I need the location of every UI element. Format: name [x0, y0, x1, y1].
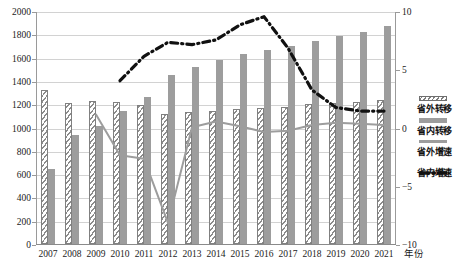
- y-axis-left-tick-label: 800: [17, 147, 31, 157]
- legend-swatch-gray-line: [419, 140, 447, 143]
- legend-label-neizhuanyi: 省内转移: [417, 124, 460, 137]
- chart-container: 0200400600800100012001400160018002000 −1…: [0, 0, 460, 265]
- legend-item-neizhuanyi: 省内转移: [417, 118, 460, 137]
- legend-item-waizhuanyi: 省外转移: [417, 96, 460, 115]
- x-axis-tick-label: 2009: [87, 249, 106, 259]
- x-axis-tick-label: 2021: [375, 249, 394, 259]
- legend-swatch-hatched-bar: [419, 96, 447, 101]
- legend-label-waizhuanyi: 省外转移: [417, 102, 460, 115]
- y-axis-right-tick-mark: [396, 12, 400, 13]
- legend-item-waizengsu: 省外增速: [417, 140, 460, 158]
- y-axis-right-tick-mark: [396, 187, 400, 188]
- y-axis-left-tick-label: 200: [17, 217, 31, 227]
- x-axis-tick-label: 2013: [183, 249, 202, 259]
- plot-area: 0200400600800100012001400160018002000 −1…: [36, 12, 396, 245]
- legend-label-waizengsu: 省外增速: [417, 145, 460, 158]
- line-inside-growth: [120, 17, 384, 111]
- legend-swatch-dash-dot-line: [419, 161, 447, 165]
- y-axis-right-tick-mark: [396, 245, 400, 246]
- y-axis-left-tick-label: 0: [26, 240, 31, 250]
- y-axis-right-tick-mark: [396, 129, 400, 130]
- y-axis-right-tick-mark: [396, 70, 400, 71]
- legend-item-neizengsu: 省内增速: [417, 161, 460, 179]
- y-axis-left-tick-label: 1600: [12, 54, 31, 64]
- x-axis-tick-label: 2007: [39, 249, 58, 259]
- x-axis-tick-label: 2011: [135, 249, 154, 259]
- line-outside-growth: [96, 115, 384, 223]
- x-axis-tick-label: 2008: [63, 249, 82, 259]
- x-axis-tick-label: 2018: [303, 249, 322, 259]
- x-axis-tick-label: 2016: [255, 249, 274, 259]
- x-axis-tick-label: 2014: [207, 249, 226, 259]
- x-axis-title: 年份: [404, 246, 424, 260]
- legend-label-neizengsu: 省内增速: [417, 166, 460, 179]
- y-axis-right-tick-label: 5: [402, 65, 407, 75]
- x-axis-tick-label: 2017: [279, 249, 298, 259]
- y-axis-left-tick-label: 1200: [12, 100, 31, 110]
- x-axis-tick-label: 2012: [159, 249, 178, 259]
- x-axis-tick-label: 2020: [351, 249, 370, 259]
- chart-legend: 省外转移 省内转移 省外增速 省内增速: [417, 96, 460, 182]
- y-axis-left-tick-label: 1000: [12, 124, 31, 134]
- x-axis-tick-label: 2010: [111, 249, 130, 259]
- y-axis-right-tick-label: 0: [402, 124, 407, 134]
- y-axis-left-tick-label: 1400: [12, 77, 31, 87]
- y-axis-left-tick-mark: [32, 245, 36, 246]
- line-series-group: [36, 12, 396, 245]
- x-axis-tick-label: 2019: [327, 249, 346, 259]
- legend-swatch-gray-bar: [419, 118, 447, 123]
- y-axis-right-tick-label: −5: [402, 182, 412, 192]
- y-axis-right-tick-label: 10: [402, 7, 412, 17]
- y-axis-left-tick-label: 1800: [12, 30, 31, 40]
- y-axis-left-tick-label: 400: [17, 193, 31, 203]
- x-axis-tick-label: 2015: [231, 249, 250, 259]
- y-axis-left-tick-label: 2000: [12, 7, 31, 17]
- y-axis-left-tick-label: 600: [17, 170, 31, 180]
